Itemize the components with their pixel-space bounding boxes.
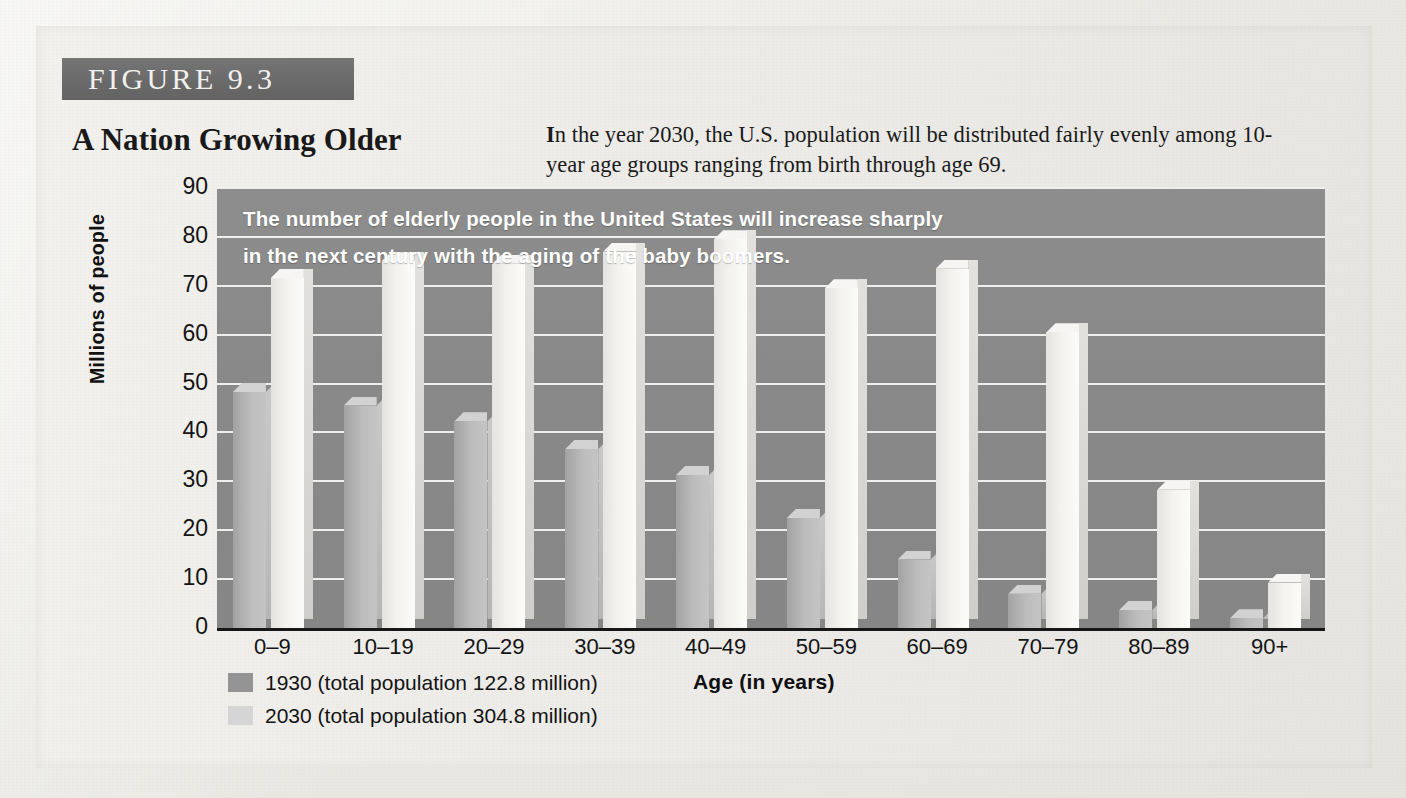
bar-side-face [415, 252, 424, 619]
bar-front-face [1268, 583, 1301, 628]
lede-body: n the year 2030, the U.S. population wil… [546, 122, 1272, 177]
legend-item: 2030 (total population 304.8 million) [228, 699, 598, 732]
y-axis-tick-label: 0 [138, 613, 208, 640]
figure-lede-text: In the year 2030, the U.S. population wi… [546, 120, 1276, 180]
y-axis-tick-label: 20 [138, 515, 208, 542]
bar-2030-10_19 [382, 261, 415, 628]
bar-2030-20_29 [492, 264, 525, 628]
bar-side-face [1301, 574, 1310, 619]
bar-1930-80_89 [1119, 610, 1152, 628]
x-axis-tick-label: 90+ [1214, 634, 1325, 660]
x-axis-tick-label: 50–59 [771, 634, 882, 660]
bar-front-face [1046, 332, 1079, 628]
legend-item: 1930 (total population 122.8 million) [228, 666, 598, 699]
bar-side-face [1190, 481, 1199, 619]
legend: 1930 (total population 122.8 million)203… [228, 666, 598, 732]
x-axis-tick-label: 80–89 [1103, 634, 1214, 660]
bar-front-face [1119, 610, 1152, 628]
bar-side-face [747, 230, 756, 619]
chart-caption-line: The number of elderly people in the Unit… [243, 200, 1263, 237]
bar-top-face [344, 397, 377, 406]
x-axis-tick-label: 10–19 [328, 634, 439, 660]
bar-front-face [271, 278, 304, 628]
bar-side-face [1079, 323, 1088, 619]
bar-2030-70_79 [1046, 332, 1079, 628]
bar-front-face [454, 421, 487, 628]
bar-side-face [304, 269, 313, 619]
bar-top-face [565, 440, 598, 449]
y-axis-tick-label: 80 [138, 222, 208, 249]
y-axis-tick-label: 40 [138, 417, 208, 444]
figure-title: A Nation Growing Older [72, 122, 402, 158]
legend-label: 2030 (total population 304.8 million) [265, 704, 598, 728]
bar-top-face [1230, 609, 1263, 618]
bar-front-face [714, 239, 747, 628]
bar-top-face [825, 279, 858, 288]
figure-number-badge: FIGURE 9.3 [62, 58, 354, 100]
bar-top-face [1008, 585, 1041, 594]
bar-front-face [1008, 594, 1041, 628]
bar-front-face [1230, 618, 1263, 628]
bar-1930-90+ [1230, 618, 1263, 628]
bar-1930-60_69 [898, 560, 931, 628]
bar-top-face [1157, 481, 1190, 490]
bar-top-face [233, 383, 266, 392]
chart-caption-line: in the next century with the aging of th… [243, 237, 1263, 274]
bar-front-face [825, 288, 858, 628]
x-axis-tick-label: 70–79 [993, 634, 1104, 660]
y-axis-tick-label: 50 [138, 369, 208, 396]
lede-dropcap: I [546, 122, 555, 147]
bar-top-face [1268, 574, 1301, 583]
bar-top-face [1119, 601, 1152, 610]
y-axis-tick-label: 70 [138, 271, 208, 298]
y-axis-title: Millions of people [86, 214, 109, 384]
bar-top-face [787, 509, 820, 518]
bar-front-face [603, 252, 636, 628]
bar-2030-80_89 [1157, 490, 1190, 628]
bar-1930-40_49 [676, 475, 709, 628]
bar-2030-30_39 [603, 252, 636, 628]
bar-top-face [1046, 323, 1079, 332]
bar-2030-60_69 [936, 269, 969, 628]
bar-side-face [969, 260, 978, 619]
legend-swatch [228, 706, 253, 725]
bar-2030-50_59 [825, 288, 858, 628]
bar-1930-10_19 [344, 406, 377, 628]
axis-baseline [217, 628, 1325, 631]
bar-1930-70_79 [1008, 594, 1041, 628]
bar-front-face [382, 261, 415, 628]
bar-front-face [676, 475, 709, 628]
y-axis-tick-label: 90 [138, 173, 208, 200]
bar-front-face [936, 269, 969, 628]
page-background: FIGURE 9.3 A Nation Growing Older In the… [0, 0, 1406, 798]
figure-number-label: FIGURE 9.3 [62, 62, 275, 96]
bar-1930-30_39 [565, 449, 598, 628]
x-axis-tick-label: 0–9 [217, 634, 328, 660]
y-axis-tick-label: 30 [138, 466, 208, 493]
bar-front-face [344, 406, 377, 628]
bar-front-face [787, 518, 820, 628]
y-axis-tick-label: 10 [138, 564, 208, 591]
bar-front-face [1157, 490, 1190, 628]
y-axis-tick-label: 60 [138, 320, 208, 347]
bar-2030-40_49 [714, 239, 747, 628]
x-axis-tick-label: 30–39 [549, 634, 660, 660]
bar-side-face [858, 279, 867, 619]
x-axis-tick-label: 20–29 [439, 634, 550, 660]
bar-2030-90+ [1268, 583, 1301, 628]
x-axis-tick-label: 60–69 [882, 634, 993, 660]
bar-top-face [454, 412, 487, 421]
bar-top-face [898, 551, 931, 560]
bar-front-face [492, 264, 525, 628]
legend-swatch [228, 673, 253, 692]
bar-side-face [636, 243, 645, 619]
x-axis-ticks: 0–910–1920–2930–3940–4950–5960–6970–7980… [217, 634, 1325, 668]
plot-area: The number of elderly people in the Unit… [217, 188, 1325, 628]
x-axis-title: Age (in years) [693, 670, 835, 694]
bar-front-face [233, 392, 266, 628]
chart: Millions of people The number of elderly… [132, 188, 1332, 648]
bar-front-face [565, 449, 598, 628]
bar-1930-0_9 [233, 392, 266, 628]
legend-label: 1930 (total population 122.8 million) [265, 671, 598, 695]
bar-top-face [676, 466, 709, 475]
